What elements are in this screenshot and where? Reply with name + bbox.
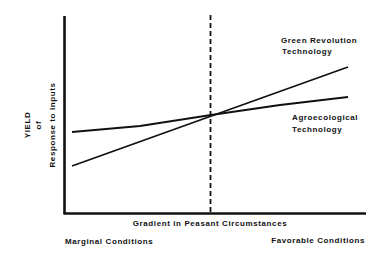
green-revolution-label-line-1: Green Revolution: [281, 36, 357, 45]
x-label-favorable-conditions: Favorable Conditions: [271, 236, 365, 245]
y-axis-title-line-2: of: [34, 121, 43, 130]
x-axis-title: Gradient in Peasant Circumstances: [133, 219, 288, 228]
green-revolution-label-line-2: Technology: [282, 47, 332, 56]
y-axis-title-line-1: YIELD: [23, 112, 32, 139]
x-label-marginal-conditions: Marginal Conditions: [65, 237, 153, 246]
agroecological-label-line-1: Agroecological: [292, 113, 358, 122]
y-axis-title-line-3: Response to Inputs: [48, 82, 57, 167]
y-axis-title: YIELD: [23, 112, 32, 139]
y-axis-title-response: Response to Inputs: [48, 82, 57, 167]
yield-response-diagram: Green Revolution Technology Agroecologic…: [0, 0, 386, 262]
y-axis-title-of: of: [34, 121, 43, 130]
agroecological-label-line-2: Technology: [292, 125, 342, 134]
